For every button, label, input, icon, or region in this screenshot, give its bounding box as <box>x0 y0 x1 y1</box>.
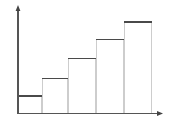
chart-canvas <box>0 0 170 126</box>
bar-body <box>96 40 124 113</box>
bar-body <box>124 22 152 113</box>
bar-body <box>42 78 68 113</box>
bar-body <box>18 96 42 113</box>
bars-group <box>18 22 152 113</box>
y-axis-arrowhead <box>16 5 21 11</box>
chart-figure <box>0 0 170 126</box>
x-axis-arrowhead <box>157 111 163 116</box>
bar-body <box>68 59 96 113</box>
